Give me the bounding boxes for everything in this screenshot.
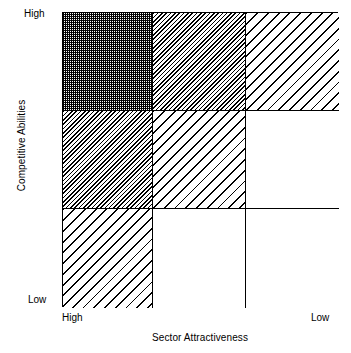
matrix-grid: [62, 12, 338, 307]
x-axis-tick-low: Low: [311, 312, 329, 323]
x-axis-tick-high: High: [62, 312, 83, 323]
matrix-cell-r0c1: [153, 13, 246, 111]
matrix-cell-r2c1: [153, 209, 246, 308]
x-axis-title: Sector Attractiveness: [62, 332, 338, 343]
matrix-cell-r1c1: [153, 111, 246, 209]
matrix-cell-r0c0: [63, 13, 153, 111]
y-axis-tick-low: Low: [28, 294, 46, 305]
matrix-chart-figure: Competitive Abilities High Low High Low …: [0, 0, 351, 353]
y-axis-title: Competitive Abilities: [16, 66, 27, 226]
matrix-cell-r2c0: [63, 209, 153, 308]
matrix-cell-r1c2: [246, 111, 339, 209]
matrix-cell-r2c2: [246, 209, 339, 308]
matrix-cell-r0c2: [246, 13, 339, 111]
matrix-cell-r1c0: [63, 111, 153, 209]
y-axis-tick-high: High: [24, 8, 45, 19]
